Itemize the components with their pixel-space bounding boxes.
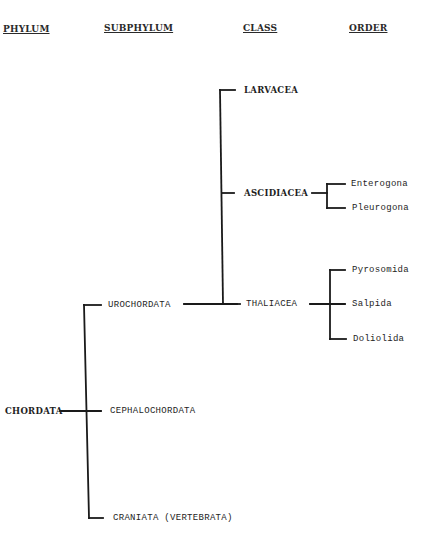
node-pyrosomida: Pyrosomida [352, 265, 409, 275]
node-doliolida: Doliolida [353, 334, 404, 344]
node-chordata: CHORDATA [5, 406, 63, 416]
node-enterogona: Enterogona [351, 179, 408, 189]
node-ascidiacea: ASCIDIACEA [244, 188, 308, 198]
node-craniata: CRANIATA (VERTEBRATA) [113, 513, 233, 523]
node-urochordata: UROCHORDATA [108, 300, 171, 310]
node-thaliacea: THALIACEA [246, 299, 297, 309]
node-pleurogona: Pleurogona [352, 203, 409, 213]
node-larvacea: LARVACEA [244, 85, 298, 95]
node-salpida: Salpida [352, 299, 392, 309]
node-cephalochordata: CEPHALOCHORDATA [110, 406, 196, 416]
tree-connector-lines [0, 0, 440, 555]
